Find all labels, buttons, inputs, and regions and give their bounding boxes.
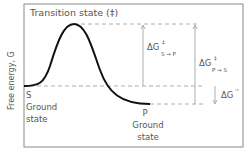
energy-diagram: Transition state (‡) Free energy, G S Gr… (0, 0, 247, 153)
standard-change-label: ΔG (221, 90, 233, 100)
p-symbol: P (142, 108, 147, 118)
s-ground-line1: Ground (26, 102, 57, 112)
forward-barrier-sub: S → P (161, 51, 177, 57)
energy-curve (24, 24, 150, 104)
reverse-barrier-sup: ‡ (214, 55, 217, 61)
reverse-barrier-sub: P → S (212, 67, 227, 73)
s-symbol: S (26, 90, 31, 100)
reverse-barrier-label: ΔG (199, 58, 211, 68)
standard-change-sup: '° (235, 88, 239, 94)
p-ground-line2: state (137, 132, 159, 142)
forward-barrier-sup: ‡ (162, 39, 165, 45)
transition-state-label: Transition state (‡) (29, 7, 118, 18)
p-ground-line1: Ground (132, 120, 163, 130)
s-ground-line2: state (26, 114, 48, 124)
forward-barrier-label: ΔG (147, 42, 159, 52)
y-axis-label: Free energy, G (7, 51, 16, 110)
